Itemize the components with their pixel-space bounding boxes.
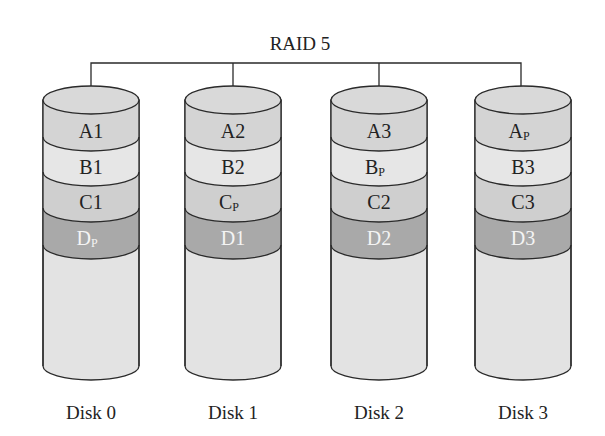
- block-b2: B2: [221, 156, 244, 178]
- block-b3: B3: [511, 156, 534, 178]
- block-c1: C1: [79, 191, 102, 213]
- disk-0-cylinder: A1 B1 C1 DP: [43, 86, 139, 380]
- cylinder-top: [331, 86, 427, 114]
- disk-1-label: Disk 1: [208, 402, 258, 423]
- diagram-title: RAID 5: [270, 33, 331, 54]
- disk-3-label: Disk 3: [498, 402, 548, 423]
- block-b1: B1: [79, 156, 102, 178]
- cylinder-top: [475, 86, 571, 114]
- disk-2-label: Disk 2: [354, 402, 404, 423]
- bus-line: [91, 63, 521, 100]
- cylinder-top: [43, 86, 139, 114]
- block-c3: C3: [511, 191, 534, 213]
- disk-2-cylinder: A3 BP C2 D2: [331, 86, 427, 380]
- disk-0-label: Disk 0: [66, 402, 116, 423]
- cylinder-top: [185, 86, 281, 114]
- block-d3: D3: [511, 227, 535, 249]
- raid5-diagram: RAID 5 A1 B1 C1 DP: [0, 0, 605, 436]
- connector-lines: [91, 63, 521, 100]
- block-a2: A2: [221, 120, 245, 142]
- block-a3: A3: [367, 120, 391, 142]
- block-d1: D1: [221, 227, 245, 249]
- block-c2: C2: [367, 191, 390, 213]
- block-a1: A1: [79, 120, 103, 142]
- disk-3-cylinder: AP B3 C3 D3: [475, 86, 571, 380]
- block-d2: D2: [367, 227, 391, 249]
- disk-1-cylinder: A2 B2 CP D1: [185, 86, 281, 380]
